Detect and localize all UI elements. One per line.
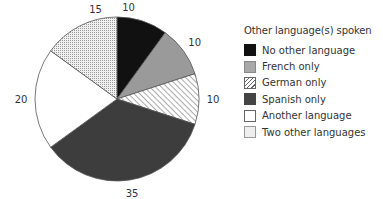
legend-swatch	[244, 61, 256, 73]
legend-label: Another language	[262, 110, 352, 121]
legend-item: Spanish only	[244, 91, 383, 107]
slice-value-label: 10	[207, 94, 220, 105]
legend-swatch	[244, 93, 256, 105]
legend-label: French only	[262, 61, 320, 72]
pie-chart: 101010352015	[0, 0, 230, 199]
legend-title: Other language(s) spoken	[244, 25, 383, 36]
legend-item: No other language	[244, 42, 383, 58]
legend-swatch	[244, 44, 256, 56]
legend-swatch	[244, 77, 256, 89]
legend-label: German only	[262, 77, 326, 88]
slice-value-label: 15	[89, 4, 102, 15]
legend-item: German only	[244, 75, 383, 91]
legend-label: Two other languages	[262, 127, 366, 138]
legend: Other language(s) spoken No other langua…	[244, 25, 383, 140]
legend-item: Another language	[244, 108, 383, 124]
legend-label: No other language	[262, 45, 355, 56]
slice-value-label: 20	[15, 94, 28, 105]
legend-item: Two other languages	[244, 124, 383, 140]
legend-swatch	[244, 126, 256, 138]
slice-value-label: 10	[122, 2, 135, 13]
legend-item: French only	[244, 58, 383, 74]
pie-slices	[35, 17, 199, 181]
slice-value-label: 35	[126, 188, 139, 199]
legend-swatch	[244, 110, 256, 122]
slice-value-label: 10	[188, 37, 201, 48]
legend-label: Spanish only	[262, 94, 326, 105]
